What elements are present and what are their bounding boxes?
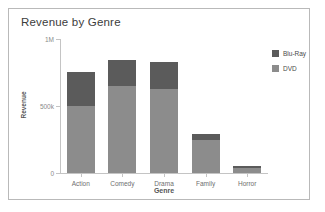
- bar-stack: [67, 72, 95, 173]
- bar-horror[interactable]: [233, 39, 261, 173]
- chart-legend: Blu-RayDVD: [272, 49, 318, 79]
- bar-segment-blu-ray[interactable]: [108, 60, 136, 86]
- y-axis-tick-label: 500k: [40, 103, 54, 110]
- bar-family[interactable]: [192, 39, 220, 173]
- legend-swatch-icon: [272, 65, 279, 72]
- x-axis-tick-mark: [206, 173, 207, 177]
- bar-stack: [150, 62, 178, 173]
- bar-stack: [108, 60, 136, 173]
- x-axis-tick-mark: [122, 173, 123, 177]
- legend-label: Blu-Ray: [283, 50, 306, 57]
- y-axis-tick-label: 0: [50, 170, 54, 177]
- bar-drama[interactable]: [150, 39, 178, 173]
- x-axis-label-action: Action: [72, 180, 90, 187]
- y-axis-tick-mark: [56, 39, 60, 40]
- x-axis-title: Genre: [154, 187, 174, 194]
- x-axis-label-drama: Drama: [154, 180, 174, 187]
- bar-stack: [233, 166, 261, 173]
- plot-area: 0500k1M ActionComedyDramaFamilyHorror: [60, 31, 268, 173]
- bar-segment-blu-ray[interactable]: [150, 62, 178, 89]
- legend-swatch-icon: [272, 50, 279, 57]
- legend-label: DVD: [283, 65, 297, 72]
- y-axis-title: Revenue: [20, 91, 27, 118]
- bar-comedy[interactable]: [108, 39, 136, 173]
- bar-segment-dvd[interactable]: [67, 106, 95, 173]
- bar-action[interactable]: [67, 39, 95, 173]
- bar-segment-dvd[interactable]: [150, 89, 178, 173]
- y-axis-tick-label: 1M: [45, 36, 54, 43]
- chart-title: Revenue by Genre: [21, 16, 121, 28]
- y-axis-line: [60, 39, 61, 173]
- x-axis-label-comedy: Comedy: [110, 180, 134, 187]
- x-axis-tick-mark: [164, 173, 165, 177]
- legend-item-blu-ray[interactable]: Blu-Ray: [272, 49, 318, 57]
- bar-segment-dvd[interactable]: [108, 86, 136, 173]
- bar-segment-dvd[interactable]: [192, 140, 220, 173]
- x-axis-tick-mark: [81, 173, 82, 177]
- x-axis-label-horror: Horror: [238, 180, 256, 187]
- legend-item-dvd[interactable]: DVD: [272, 64, 318, 72]
- x-axis-tick-mark: [247, 173, 248, 177]
- chart-panel: Revenue by Genre Revenue Genre 0500k1M A…: [8, 8, 310, 200]
- bar-stack: [192, 134, 220, 173]
- y-axis-tick-mark: [56, 106, 60, 107]
- bar-segment-blu-ray[interactable]: [67, 72, 95, 106]
- x-axis-label-family: Family: [196, 180, 215, 187]
- y-axis-tick-mark: [56, 173, 60, 174]
